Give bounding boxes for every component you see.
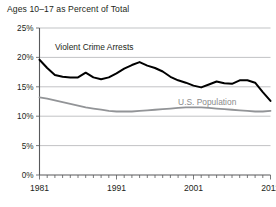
y-axis-tick-label: 15% bbox=[17, 83, 33, 92]
y-axis-tick-label: 5% bbox=[22, 142, 34, 151]
series-label-violent-crime-arrests: Violent Crime Arrests bbox=[55, 42, 134, 52]
y-axis-tick-label: 20% bbox=[17, 53, 33, 62]
x-axis-tick-label: 2011 bbox=[261, 183, 276, 193]
x-axis-tick-label: 1991 bbox=[107, 183, 126, 193]
y-axis-tick-label: 25% bbox=[17, 24, 33, 33]
y-axis-tick-label: 10% bbox=[17, 112, 33, 121]
series-label-us-population: U.S. Population bbox=[178, 97, 237, 107]
line-chart: 0%5%10%15%20%25% 1981199120012011 Violen… bbox=[0, 0, 276, 207]
chart-figure: Ages 10–17 as Percent of Total 0%5%10%15… bbox=[0, 0, 276, 207]
y-axis-tick-labels: 0%5%10%15%20%25% bbox=[17, 24, 33, 180]
x-axis-tick-label: 2001 bbox=[184, 183, 203, 193]
x-axis-tick-labels: 1981199120012011 bbox=[30, 183, 276, 193]
x-axis-tick-label: 1981 bbox=[30, 183, 49, 193]
x-axis-tick-marks bbox=[40, 175, 271, 180]
series-line-violent-crime-arrests bbox=[40, 60, 271, 101]
y-axis-tick-label: 0% bbox=[22, 171, 34, 180]
